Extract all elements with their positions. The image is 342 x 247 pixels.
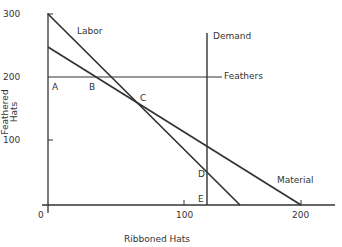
point-c: C (140, 94, 146, 103)
x-tick-200: 200 (292, 211, 309, 220)
y-tick-300: 300 (3, 10, 20, 19)
labor-line (48, 14, 240, 205)
point-d: D (198, 170, 205, 179)
material-line (48, 47, 301, 205)
feathers-label: Feathers (224, 72, 263, 81)
chart: 300 200 100 0 100 200 Ribboned Hats Feat… (0, 0, 342, 247)
x-tick-100: 100 (176, 211, 193, 220)
x-axis-title: Ribboned Hats (124, 235, 190, 244)
y-tick-200: 200 (3, 73, 20, 82)
y-axis-title: Feathered Hats (1, 82, 19, 142)
x-tick-0: 0 (38, 211, 44, 220)
point-e: E (198, 195, 204, 204)
plot-area (0, 0, 342, 247)
labor-label: Labor (77, 27, 102, 36)
point-a: A (52, 83, 58, 92)
material-label: Material (277, 176, 314, 185)
demand-label: Demand (213, 32, 251, 41)
point-b: B (89, 83, 95, 92)
